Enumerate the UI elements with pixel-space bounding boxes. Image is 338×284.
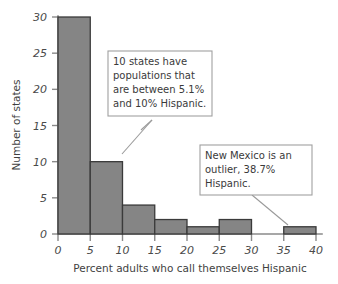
histogram-chart: 051015202530 0510152025303540 Number of … [0, 0, 338, 284]
callout-1-line-3: are between 5.1% [113, 84, 204, 95]
x-tick-label: 0 [55, 244, 62, 257]
bars-group [58, 17, 316, 234]
callout-1-line-4: and 10% Hispanic. [113, 98, 206, 109]
bar-25-30 [219, 220, 251, 234]
x-tick-label: 40 [309, 244, 323, 257]
x-tick-label: 30 [245, 244, 259, 257]
y-tick-label: 25 [33, 47, 47, 60]
callout-1-line-1: 10 states have [113, 56, 187, 67]
bar-5-10 [90, 162, 122, 234]
bar-0-5 [58, 17, 90, 234]
y-tick-label: 20 [33, 83, 47, 96]
bar-10-15 [123, 205, 155, 234]
x-tick-label: 10 [116, 244, 130, 257]
bar-35-40 [284, 227, 316, 234]
x-tick-label: 25 [212, 244, 226, 257]
x-tick-label: 35 [277, 244, 291, 257]
x-axis-ticks: 0510152025303540 [55, 234, 324, 257]
callout-1-line-2: populations that [113, 70, 195, 81]
bar-15-20 [155, 220, 187, 234]
chart-page: 051015202530 0510152025303540 Number of … [0, 0, 338, 284]
callout-leader-line-2 [252, 195, 288, 225]
y-tick-label: 10 [33, 156, 47, 169]
callout-2-line-1: New Mexico is an [205, 150, 292, 161]
callout-leader-line-1b [122, 120, 152, 154]
y-axis-title: Number of states [10, 79, 22, 170]
x-tick-label: 20 [180, 244, 194, 257]
callout-2-line-2: outlier, 38.7% [205, 164, 275, 175]
y-tick-label: 15 [33, 120, 47, 133]
x-tick-label: 15 [148, 244, 162, 257]
y-axis-ticks: 051015202530 [33, 11, 58, 241]
callout-2-line-3: Hispanic. [205, 178, 251, 189]
x-tick-label: 5 [87, 244, 94, 257]
bar-20-25 [187, 227, 219, 234]
y-tick-label: 5 [40, 192, 47, 205]
y-tick-label: 30 [33, 11, 47, 24]
y-tick-label: 0 [40, 228, 47, 241]
x-axis-title: Percent adults who call themselves Hispa… [73, 262, 307, 274]
